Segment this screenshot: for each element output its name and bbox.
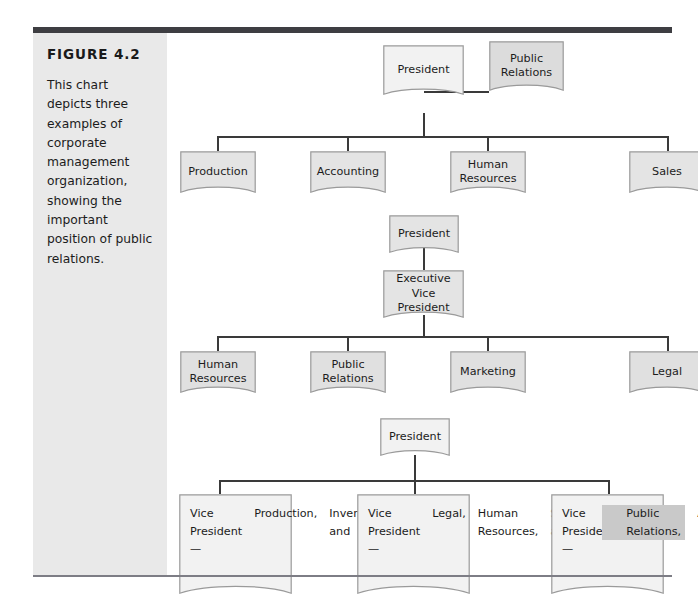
vp-line-highlighted: Public Relations,	[602, 505, 685, 540]
node-c3-vp-public-relations[interactable]: Vice President— Public Relations, Advert…	[551, 494, 664, 594]
vp-line: Human Resources,	[466, 505, 539, 540]
vp-head: Vice President—	[190, 505, 242, 558]
figure-bottom-rule	[33, 575, 672, 577]
node-label: President	[380, 418, 450, 456]
connector-c3-drop-vp-legal	[414, 480, 416, 494]
node-label: Vice President— Production, Inventory, a…	[179, 494, 292, 594]
vp-head: Vice President—	[368, 505, 420, 558]
node-c3-president[interactable]: President	[380, 418, 450, 456]
org-chart-area: President Public Relations Production Ac…	[167, 33, 672, 575]
node-label: Vice President— Public Relations, Advert…	[551, 494, 664, 594]
vp-line: Legal,	[420, 505, 466, 523]
figure-number-label: FIGURE 4.2	[47, 46, 153, 62]
figure-caption-panel: FIGURE 4.2 This chart depicts three exam…	[33, 33, 167, 575]
connector-c3-president-stem	[414, 455, 416, 481]
org-chart-3: President Vice President— Production, In…	[167, 33, 672, 575]
node-c3-vp-legal[interactable]: Vice President— Legal, Human Resources, …	[357, 494, 470, 594]
vp-line: Production,	[242, 505, 317, 523]
node-c3-vp-production[interactable]: Vice President— Production, Inventory, a…	[179, 494, 292, 594]
connector-c3-drop-vp-production	[219, 480, 221, 494]
vp-line: Advertising,	[685, 505, 698, 523]
figure-caption-text: This chart depicts three examples of cor…	[47, 76, 153, 269]
connector-c3-drop-vp-public-relations	[608, 480, 610, 494]
node-label: Vice President— Legal, Human Resources, …	[357, 494, 470, 594]
